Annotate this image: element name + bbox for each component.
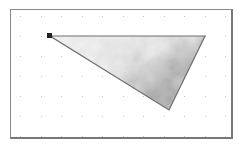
grid-dot — [123, 136, 124, 137]
grid-dot — [123, 16, 124, 17]
grid-dot — [164, 136, 165, 137]
grid-dot — [225, 16, 226, 17]
grid-dot — [20, 76, 21, 77]
grid-dot — [225, 96, 226, 97]
drawing-canvas[interactable] — [10, 9, 233, 139]
grid-dot — [82, 16, 83, 17]
grid-dot — [61, 136, 62, 137]
grid-dot — [82, 96, 83, 97]
grid-dot — [41, 116, 42, 117]
grid-dot — [205, 96, 206, 97]
grid-dot — [225, 116, 226, 117]
grid-dot — [102, 16, 103, 17]
grid-dot — [143, 136, 144, 137]
grid-dot — [225, 76, 226, 77]
grid-dot — [20, 56, 21, 57]
grid-dot — [41, 36, 42, 37]
selection-handle[interactable] — [47, 33, 52, 38]
grid-dot — [102, 96, 103, 97]
drawing-stage — [0, 0, 243, 151]
grid-dot — [143, 96, 144, 97]
grid-dot — [184, 136, 185, 137]
grid-dot — [102, 116, 103, 117]
grid-dot — [205, 56, 206, 57]
grid-dot — [82, 76, 83, 77]
grid-dot — [82, 116, 83, 117]
grid-dot — [143, 16, 144, 17]
grid-dot — [20, 16, 21, 17]
grid-dot — [205, 76, 206, 77]
grid-dot — [61, 96, 62, 97]
grid-dot — [205, 116, 206, 117]
grid-dot — [123, 116, 124, 117]
grid-dot — [41, 76, 42, 77]
grid-dot — [20, 36, 21, 37]
grid-dot — [41, 96, 42, 97]
grid-dot — [225, 56, 226, 57]
grid-dot — [61, 76, 62, 77]
grid-dot — [41, 136, 42, 137]
grid-dot — [41, 16, 42, 17]
grid-dot — [225, 36, 226, 37]
grid-dot — [82, 136, 83, 137]
grid-dot — [61, 56, 62, 57]
grid-dot — [164, 16, 165, 17]
grid-dot — [184, 116, 185, 117]
grid-dot — [61, 16, 62, 17]
grid-dot — [20, 116, 21, 117]
triangle-shape[interactable] — [11, 10, 231, 138]
grid-dot — [164, 116, 165, 117]
grid-dot — [184, 96, 185, 97]
grid-dot — [20, 136, 21, 137]
grid-dot — [123, 96, 124, 97]
grid-dot — [41, 56, 42, 57]
grid-dot — [184, 16, 185, 17]
grid-dot — [143, 116, 144, 117]
grid-dot — [205, 16, 206, 17]
grid-dot — [61, 116, 62, 117]
grid-dot — [225, 136, 226, 137]
canvas-surface[interactable] — [11, 10, 231, 138]
grid-dot — [205, 136, 206, 137]
grid-dot — [102, 136, 103, 137]
grid-dot — [20, 96, 21, 97]
grid-dot — [102, 76, 103, 77]
